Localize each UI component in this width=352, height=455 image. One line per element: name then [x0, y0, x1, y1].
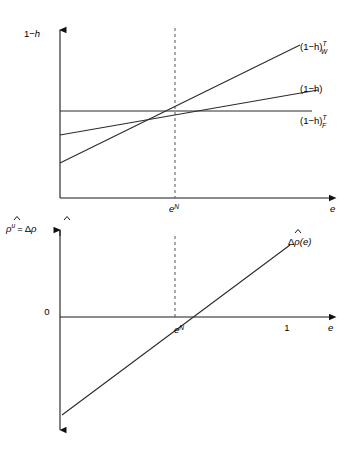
bottom-panel-zero-label: 0: [44, 306, 49, 317]
top-panel-x-axis-label: e: [330, 203, 335, 214]
bottom-panel-y-axis-label: ρu=Δρ: [5, 222, 37, 234]
curve-label-1-minus-h: (1−h): [300, 83, 322, 94]
top-panel: 1−h e eN (1−h)TW (1−h) (1−h)TF: [24, 28, 335, 214]
curve-label-1-minus-h-T-W: (1−h)TW: [300, 40, 328, 55]
figure-container: 1−h e eN (1−h)TW (1−h) (1−h)TF: [0, 0, 352, 455]
curve-label-1-minus-h-T-F: (1−h)TF: [300, 114, 327, 129]
bottom-panel: ρu=Δρ 0 1 eN e Δρ(e): [5, 217, 333, 431]
rho-hat-accent-3: [295, 230, 301, 234]
top-panel-y-axis-label: 1−h: [24, 28, 40, 39]
rho-hat-accent-1: [14, 217, 20, 221]
bottom-panel-x-axis-label: e: [328, 322, 333, 333]
bottom-panel-one-label: 1: [284, 322, 289, 333]
curve-label-delta-rho-hat: Δρ(e): [288, 236, 311, 247]
top-panel-tick-label-eN: eN: [169, 203, 179, 215]
rho-hat-accent-2: [64, 217, 70, 221]
curve-wage-1-minus-h-T-W: [60, 45, 300, 163]
bottom-panel-tick-label-eN: eN: [174, 324, 184, 336]
economics-diagram-svg: 1−h e eN (1−h)TW (1−h) (1−h)TF: [0, 0, 352, 455]
curve-aggregate-1-minus-h: [60, 90, 318, 135]
